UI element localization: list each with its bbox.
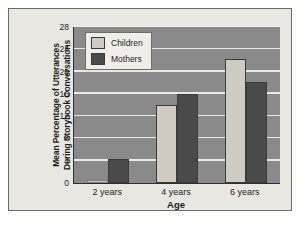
y-axis-tick-label: 8 — [64, 133, 69, 143]
x-axis-tick-label: 4 years — [145, 187, 207, 197]
y-axis-tick-label: 28 — [60, 22, 69, 32]
y-axis-tick-label: 0 — [64, 178, 69, 188]
y-axis-tick-label: 12 — [60, 111, 69, 121]
plot-area: Children Mothers — [73, 27, 280, 184]
x-axis-tick-labels: 2 years4 years6 years — [73, 187, 279, 197]
bar-mothers-6-years[interactable] — [246, 82, 267, 183]
legend-item-children[interactable]: Children — [91, 37, 143, 49]
x-axis-tick-label: 2 years — [76, 187, 138, 197]
legend-swatch-children-icon — [91, 37, 105, 49]
legend-swatch-mothers-icon — [91, 53, 105, 65]
bar-mothers-4-years[interactable] — [177, 94, 198, 183]
bar-children-6-years[interactable] — [225, 59, 246, 183]
y-axis-tick-labels: 0481216202428 — [51, 27, 69, 183]
bar-group — [215, 27, 277, 183]
bar-children-4-years[interactable] — [156, 105, 177, 183]
bar-children-2-years[interactable] — [87, 180, 108, 183]
x-axis-tick-label: 6 years — [214, 187, 276, 197]
legend-item-mothers[interactable]: Mothers — [91, 53, 143, 65]
legend-label-children: Children — [111, 38, 143, 48]
bar-group — [146, 27, 208, 183]
bar-mothers-2-years[interactable] — [108, 159, 129, 183]
x-axis-title: Age — [73, 199, 279, 210]
y-axis-tick-label: 24 — [60, 44, 69, 54]
y-axis-tick-label: 16 — [60, 89, 69, 99]
legend-label-mothers: Mothers — [111, 54, 142, 64]
legend: Children Mothers — [85, 32, 152, 70]
y-axis-tick-label: 20 — [60, 67, 69, 77]
figure-panel: Mean Percentage of Utterances During Sto… — [8, 8, 292, 211]
y-axis-tick-label: 4 — [64, 156, 69, 166]
